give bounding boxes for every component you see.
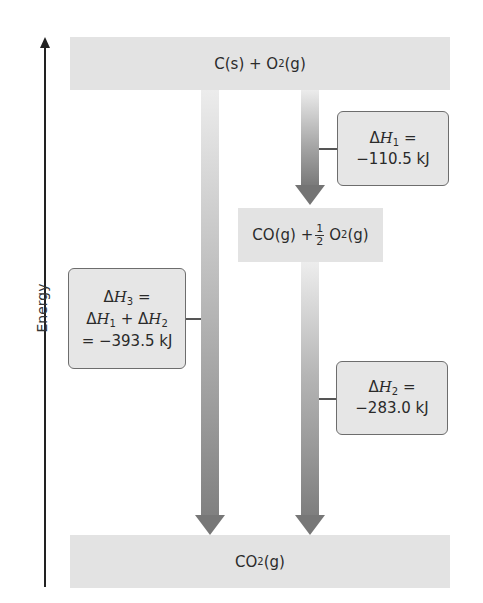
fraction-denominator: 2 [316,236,323,248]
arrow-h1-shaft [301,90,319,185]
equals-sign: = [398,378,415,396]
enthalpy-symbol: H [96,310,109,328]
level-intermediate-species-a: CO(g) + [252,226,313,244]
energy-axis-label: Energy [34,278,50,338]
arrow-h2-head-icon [295,515,325,535]
equals-sign: = [399,129,416,147]
energy-axis-arrowhead-icon [40,37,50,48]
enthalpy-symbol: H [380,129,393,147]
callout-h2-value: −283.0 kJ [355,398,428,419]
callout-h3-value: = −393.5 kJ [82,330,173,352]
fraction-numerator: 1 [315,223,324,236]
delta-symbol: Δ [86,310,96,328]
level-reactants: C(s) + O2(g) [70,37,450,90]
arrow-h3-shaft [201,90,219,516]
equals-sign: = [133,288,150,306]
callout-delta-h1: ΔH1 = −110.5 kJ [337,111,449,186]
delta-symbol: Δ [369,129,379,147]
arrow-h3-head-icon [195,515,225,535]
subscript: 2 [161,318,167,329]
callout-h3-line2: ΔH1 + ΔH2 [86,308,168,330]
enthalpy-symbol: H [114,288,127,306]
enthalpy-symbol: H [148,310,161,328]
enthalpy-symbol: H [379,378,392,396]
leader-line-h2 [319,398,336,400]
arrow-h1-head-icon [295,185,325,205]
callout-h1-value: −110.5 kJ [356,149,429,170]
level-products-species: CO [235,553,257,571]
plus-sign: + [116,310,138,328]
state: (g) [285,55,306,73]
level-reactants-species: C(s) + O [214,55,278,73]
callout-h1-label: ΔH1 = [369,128,416,149]
callout-delta-h2: ΔH2 = −283.0 kJ [336,361,448,435]
fraction-one-half: 1 2 [315,223,324,248]
level-products: CO2(g) [70,535,450,588]
level-intermediate: CO(g) + 1 2 O2(g) [238,208,383,262]
leader-line-h1 [319,148,337,150]
arrow-h2-shaft [301,262,319,516]
leader-line-h3 [186,318,201,320]
state: (g) [347,226,368,244]
delta-symbol: Δ [103,288,113,306]
delta-symbol: Δ [368,378,378,396]
level-intermediate-species-b: O [329,226,341,244]
callout-delta-h3: ΔH3 = ΔH1 + ΔH2 = −393.5 kJ [68,268,186,369]
state: (g) [264,553,285,571]
delta-symbol: Δ [138,310,148,328]
callout-h3-line1: ΔH3 = [103,286,150,308]
callout-h2-label: ΔH2 = [368,377,415,398]
